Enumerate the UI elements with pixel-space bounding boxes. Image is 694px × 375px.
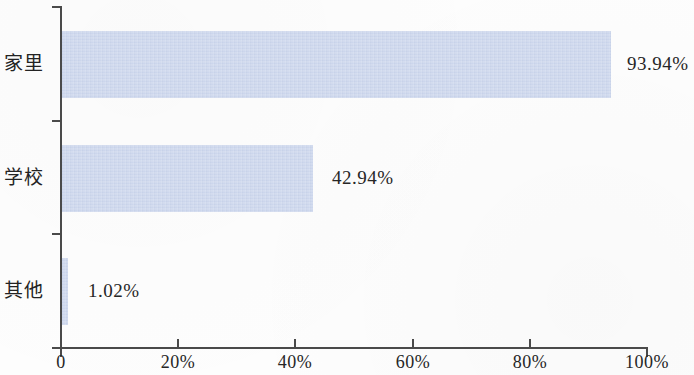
bar-school[interactable] xyxy=(62,145,313,212)
x-axis-tick-40 xyxy=(294,339,296,347)
x-tick-label-100: 100% xyxy=(625,352,669,372)
bar-other[interactable] xyxy=(62,258,68,325)
value-label-school: 42.94% xyxy=(332,168,394,188)
x-axis-tick-60 xyxy=(412,339,414,347)
x-tick-label-60: 60% xyxy=(396,352,431,372)
x-axis-tick-80 xyxy=(529,339,531,347)
x-tick-label-20: 20% xyxy=(161,352,196,372)
x-tick-label-40: 40% xyxy=(278,352,313,372)
value-label-other: 1.02% xyxy=(88,281,140,301)
x-axis-tick-20 xyxy=(177,339,179,347)
category-label-home: 家里 xyxy=(4,54,56,74)
category-label-other: 其他 xyxy=(4,281,56,301)
value-label-home: 93.94% xyxy=(627,54,689,74)
y-axis-tick xyxy=(52,120,61,122)
x-axis-line xyxy=(60,347,648,349)
category-label-school: 学校 xyxy=(4,168,56,188)
x-tick-label-0: 0 xyxy=(56,352,66,372)
bar-home[interactable] xyxy=(62,31,611,98)
y-axis-tick xyxy=(52,233,61,235)
y-axis-tick xyxy=(52,6,61,8)
horizontal-bar-chart: 家里 学校 其他 93.94% 42.94% 1.02% 0 20% 40% 6… xyxy=(0,0,694,375)
x-tick-label-80: 80% xyxy=(513,352,548,372)
